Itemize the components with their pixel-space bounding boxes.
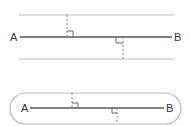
right-angle-marker bbox=[67, 31, 73, 37]
distance-diagram: A B A B bbox=[0, 0, 191, 126]
point-b-label: B bbox=[174, 31, 181, 43]
top-panel: A B bbox=[10, 15, 181, 59]
right-angle-marker bbox=[72, 103, 78, 108]
point-b-label: B bbox=[166, 102, 173, 114]
point-a-label: A bbox=[21, 102, 29, 114]
point-a-label: A bbox=[10, 31, 18, 43]
right-angle-marker bbox=[116, 37, 123, 43]
right-angle-marker bbox=[112, 108, 117, 113]
bottom-panel: A B bbox=[10, 93, 181, 124]
